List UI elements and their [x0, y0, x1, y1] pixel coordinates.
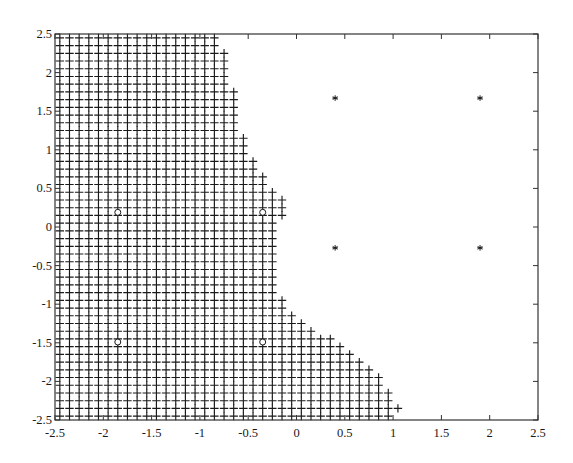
- plus-marker: [75, 366, 83, 374]
- plus-marker: [210, 288, 218, 296]
- plus-marker: [172, 273, 180, 281]
- plus-marker: [201, 412, 209, 420]
- plus-marker: [143, 389, 151, 397]
- plus-marker: [104, 412, 112, 420]
- plus-marker: [201, 72, 209, 80]
- plus-marker: [104, 242, 112, 250]
- plus-marker: [94, 88, 102, 96]
- plus-marker: [75, 281, 83, 289]
- plus-marker: [172, 373, 180, 381]
- plus-marker: [152, 381, 160, 389]
- plus-marker: [104, 103, 112, 111]
- plus-marker: [172, 397, 180, 405]
- plus-marker: [65, 412, 73, 420]
- plus-marker: [191, 219, 199, 227]
- plus-marker: [307, 327, 315, 335]
- plus-marker: [94, 288, 102, 296]
- plus-marker: [143, 103, 151, 111]
- plus-marker: [75, 111, 83, 119]
- plus-marker: [345, 397, 353, 405]
- plus-marker: [123, 358, 131, 366]
- plus-marker: [201, 49, 209, 57]
- plus-marker: [316, 373, 324, 381]
- plus-marker: [191, 304, 199, 312]
- plus-marker: [162, 142, 170, 150]
- plus-marker: [65, 366, 73, 374]
- plus-marker: [123, 350, 131, 358]
- plus-marker: [133, 412, 141, 420]
- plus-marker: [65, 111, 73, 119]
- plus-marker: [307, 373, 315, 381]
- plus-marker: [152, 342, 160, 350]
- plus-marker: [297, 327, 305, 335]
- plus-marker: [172, 265, 180, 273]
- plus-marker: [258, 373, 266, 381]
- scatter-plot: -2.5-2-1.5-1-0.500.511.522.5 2.521.510.5…: [0, 0, 573, 463]
- plus-marker: [123, 157, 131, 165]
- plus-marker: [123, 173, 131, 181]
- plus-marker: [172, 157, 180, 165]
- plus-marker: [152, 95, 160, 103]
- plus-marker: [172, 281, 180, 289]
- plus-marker: [278, 373, 286, 381]
- plus-marker: [326, 397, 334, 405]
- plus-marker: [191, 72, 199, 80]
- plus-marker: [94, 312, 102, 320]
- plus-marker: [249, 350, 257, 358]
- plus-marker: [94, 250, 102, 258]
- plus-marker: [336, 389, 344, 397]
- plus-marker: [75, 381, 83, 389]
- plus-marker: [75, 49, 83, 57]
- circle-marker: [260, 209, 266, 215]
- plus-marker: [85, 142, 93, 150]
- plus-marker: [133, 188, 141, 196]
- plus-marker: [210, 358, 218, 366]
- plus-marker: [287, 342, 295, 350]
- plus-marker: [143, 273, 151, 281]
- plus-marker: [345, 404, 353, 412]
- plus-marker: [172, 88, 180, 96]
- plus-marker: [220, 296, 228, 304]
- plus-marker: [181, 95, 189, 103]
- plus-marker: [220, 273, 228, 281]
- plus-marker: [114, 180, 122, 188]
- plus-marker: [114, 80, 122, 88]
- plus-marker: [258, 242, 266, 250]
- plus-marker: [56, 41, 64, 49]
- plus-marker: [85, 373, 93, 381]
- plus-marker: [220, 350, 228, 358]
- plus-marker: [287, 358, 295, 366]
- plus-marker: [239, 288, 247, 296]
- plus-marker: [239, 173, 247, 181]
- plus-marker: [172, 342, 180, 350]
- plus-marker: [114, 389, 122, 397]
- plus-marker: [85, 80, 93, 88]
- plus-marker: [123, 165, 131, 173]
- plus-marker: [220, 165, 228, 173]
- plus-marker: [239, 366, 247, 374]
- plus-marker: [326, 412, 334, 420]
- plus-marker: [152, 404, 160, 412]
- x-tick-label: -1: [195, 426, 205, 440]
- plus-marker: [220, 412, 228, 420]
- plus-marker: [143, 173, 151, 181]
- plus-marker: [152, 219, 160, 227]
- plus-marker: [172, 49, 180, 57]
- plus-marker: [210, 173, 218, 181]
- plus-marker: [249, 250, 257, 258]
- plus-marker: [181, 227, 189, 235]
- plus-marker: [191, 126, 199, 134]
- plus-marker: [239, 319, 247, 327]
- plus-marker: [152, 34, 160, 42]
- plus-marker: [133, 88, 141, 96]
- plus-marker: [104, 265, 112, 273]
- plus-marker: [152, 350, 160, 358]
- plus-marker: [114, 34, 122, 42]
- plus-marker: [65, 65, 73, 73]
- plus-marker: [181, 126, 189, 134]
- plus-marker: [114, 350, 122, 358]
- plus-marker: [287, 373, 295, 381]
- plus-marker: [258, 173, 266, 181]
- plus-marker: [114, 258, 122, 266]
- plus-marker: [75, 242, 83, 250]
